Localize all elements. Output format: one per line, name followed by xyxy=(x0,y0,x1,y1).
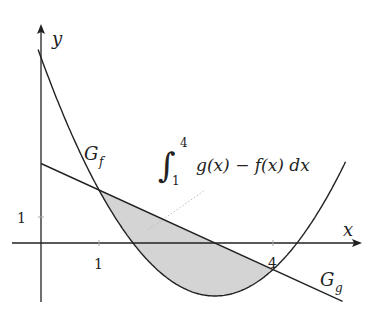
svg-text:f: f xyxy=(98,155,106,169)
label-g-f: G f xyxy=(84,143,106,169)
x-axis-label: x xyxy=(343,219,353,240)
integral-expression: ∫ 4 1 g(x) − f(x) dx xyxy=(158,136,310,188)
label-g-g: G g xyxy=(320,269,343,295)
y-axis-label: y xyxy=(51,28,63,49)
integrand: g(x) − f(x) dx xyxy=(196,155,310,175)
svg-text:G: G xyxy=(320,269,334,290)
y-tick-label-1: 1 xyxy=(17,210,26,226)
x-tick-label-4: 4 xyxy=(268,255,277,271)
integral-lower-limit: 1 xyxy=(172,174,180,188)
svg-text:g: g xyxy=(335,281,343,295)
svg-text:G: G xyxy=(84,143,98,164)
x-tick-label-1: 1 xyxy=(94,256,103,272)
integral-upper-limit: 4 xyxy=(180,136,188,150)
diagram-canvas: y x 1 4 1 G f G g ∫ 4 1 g(x) − f(x) dx xyxy=(0,0,380,335)
